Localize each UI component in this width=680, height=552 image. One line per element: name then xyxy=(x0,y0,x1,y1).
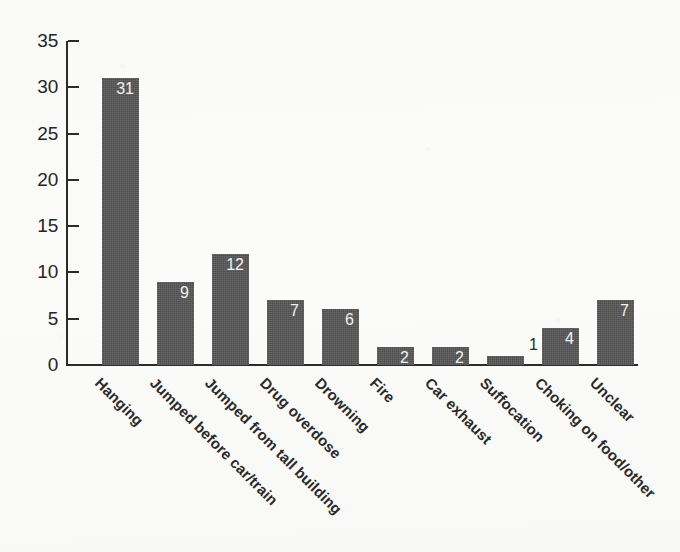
bar[interactable]: 12 xyxy=(212,254,249,365)
y-axis-tick-label: 30 xyxy=(24,77,58,96)
bar-slot: 2 xyxy=(377,41,432,365)
bar[interactable]: 9 xyxy=(157,282,194,365)
x-axis-category-label: Hanging xyxy=(92,374,147,429)
bar-slot: 12 xyxy=(212,41,267,365)
x-axis-category-label: Unclear xyxy=(587,374,638,425)
y-axis-tick-label: 0 xyxy=(24,355,58,374)
bar[interactable]: 31 xyxy=(102,78,139,365)
y-axis-tick-label: 35 xyxy=(24,31,58,50)
bar-value-label: 2 xyxy=(400,350,409,367)
bar-slot: 6 xyxy=(322,41,377,365)
bar-value-label: 12 xyxy=(226,257,244,274)
bar-value-label: 4 xyxy=(565,331,574,348)
bar-value-label: 31 xyxy=(116,81,134,98)
bar[interactable]: 4 xyxy=(542,328,579,365)
y-axis-tick-label: 20 xyxy=(24,170,58,189)
bar[interactable]: 7 xyxy=(597,300,634,365)
bar-value-label: 2 xyxy=(455,350,464,367)
bar-value-label: 6 xyxy=(345,312,354,329)
bar-slot: 2 xyxy=(432,41,487,365)
y-axis-tick-label: 25 xyxy=(24,124,58,143)
bar-slot: 4 xyxy=(542,41,597,365)
bar-slot: 7 xyxy=(267,41,322,365)
bar-slot: 1 xyxy=(487,41,542,365)
bar-slot: 7 xyxy=(597,41,652,365)
bar-slot: 9 xyxy=(157,41,212,365)
y-axis-tick-label: 5 xyxy=(24,309,58,328)
bar[interactable]: 2 xyxy=(432,347,469,366)
bar[interactable] xyxy=(487,356,524,365)
bar-chart: 05101520253035 319127622147 HangingJumpe… xyxy=(0,0,680,552)
plot-area: 319127622147 xyxy=(68,41,638,365)
y-axis-tick-label: 10 xyxy=(24,262,58,281)
bar[interactable]: 6 xyxy=(322,309,359,365)
y-axis-tick-label: 15 xyxy=(24,216,58,235)
bar-value-label: 9 xyxy=(180,285,189,302)
bar-value-label: 7 xyxy=(620,303,629,320)
x-axis-category-label: Fire xyxy=(367,374,399,406)
bar[interactable]: 2 xyxy=(377,347,414,366)
bar-slot: 31 xyxy=(102,41,157,365)
bar-value-label: 7 xyxy=(290,303,299,320)
bar[interactable]: 7 xyxy=(267,300,304,365)
bar-value-label: 1 xyxy=(529,337,538,354)
